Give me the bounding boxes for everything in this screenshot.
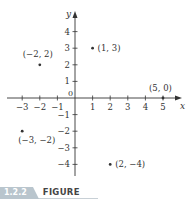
origin-label: 0 xyxy=(68,89,73,98)
point-label: (−2, 2) xyxy=(23,49,53,59)
x-tick-label: 2 xyxy=(107,102,112,112)
point-label: (1, 3) xyxy=(98,43,121,53)
y-tick-label: −1 xyxy=(57,110,70,120)
y-axis-arrow-icon xyxy=(73,11,78,18)
y-tick-label: −3 xyxy=(57,143,70,153)
y-tick-label: −4 xyxy=(57,159,70,169)
y-axis-label: y xyxy=(65,9,72,19)
figure-caption: 1.2.2 FIGURE xyxy=(0,186,98,199)
y-tick-label: 4 xyxy=(65,27,70,37)
x-tick-label: 4 xyxy=(143,102,148,112)
data-point xyxy=(38,63,41,66)
y-tick-label: 3 xyxy=(65,43,70,53)
y-tick-label: 1 xyxy=(65,76,70,86)
data-point xyxy=(109,163,112,166)
x-tick-label: 1 xyxy=(90,102,95,112)
x-axis-arrow-icon xyxy=(175,96,182,101)
y-tick-label: −2 xyxy=(57,126,70,136)
x-tick-label: 5 xyxy=(160,102,165,112)
y-tick-label: 2 xyxy=(65,60,70,70)
figure-word: FIGURE xyxy=(33,186,98,199)
x-tick-label: −3 xyxy=(16,102,29,112)
data-point xyxy=(91,47,94,50)
x-tick-label: −2 xyxy=(34,102,47,112)
coordinate-plane: xy0 −3−2−112345−4−3−2−11234 (−2, 2)(1, 3… xyxy=(0,0,186,180)
figure-number: 1.2.2 xyxy=(0,187,33,199)
data-point xyxy=(21,130,24,133)
data-point xyxy=(162,97,165,100)
x-tick-label: 3 xyxy=(125,102,130,112)
point-label: (5, 0) xyxy=(149,83,172,93)
x-axis-label: x xyxy=(180,101,185,111)
point-label: (−3, −2) xyxy=(18,135,55,145)
point-label: (2, −4) xyxy=(115,159,145,169)
